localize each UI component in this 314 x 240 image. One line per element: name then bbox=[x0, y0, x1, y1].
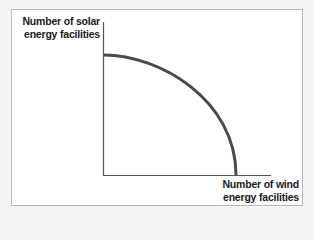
x-axis-label-line2: energy facilities bbox=[200, 191, 299, 204]
ppf-curve bbox=[104, 55, 237, 175]
x-axis-label-line1: Number of wind bbox=[200, 178, 299, 191]
x-axis-label: Number of wind energy facilities bbox=[200, 178, 299, 204]
